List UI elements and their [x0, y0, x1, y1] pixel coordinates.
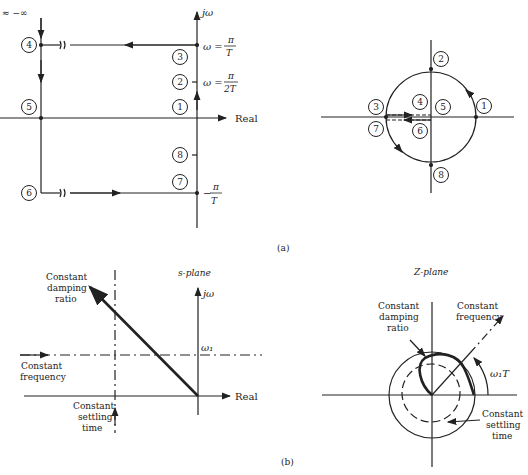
bz-damping-label-3: ratio: [387, 323, 409, 333]
break-mark-bottom: [60, 189, 65, 197]
damping-spiral: [420, 354, 474, 395]
settling-label-1: Constant: [73, 401, 114, 411]
bz-settling-label-3: time: [492, 431, 512, 441]
pi-num-2: π: [227, 71, 235, 81]
twoT-den: 2T: [223, 84, 237, 94]
b-real-label: Real: [235, 391, 258, 402]
bz-damping-label-1: Constant: [378, 301, 419, 311]
point-2: 2: [177, 77, 183, 87]
point-4: 4: [26, 40, 32, 50]
pi-num-3: π: [212, 182, 220, 192]
figure-canvas: ≈ −∞ jω Real ω = π T ω = π 2T − π T 1 2 …: [0, 0, 528, 475]
s-plane-title: s-plane: [178, 268, 211, 278]
damping-label-1: Constant: [46, 272, 87, 282]
frequency-label-1: Constant: [21, 361, 62, 371]
damping-label-2: damping: [47, 283, 87, 293]
w1T-arc: [474, 358, 488, 395]
b-zplane-diagram: [322, 302, 517, 467]
frequency-label-2: frequency: [20, 372, 67, 382]
bz-settling-label-2: settling: [486, 420, 521, 430]
T-den-1: T: [226, 48, 233, 58]
w1T-label: ω₁T: [490, 368, 510, 379]
z-point-8: 8: [438, 170, 444, 180]
bz-settling-label-1: Constant: [482, 409, 523, 419]
bz-frequency-label-2: frequency: [456, 312, 503, 322]
point-6: 6: [26, 188, 32, 198]
a-zplane-diagram: [321, 40, 514, 193]
point-7: 7: [177, 177, 183, 187]
break-mark-top: [60, 41, 65, 49]
z-point-6: 6: [417, 126, 423, 136]
a-splane-diagram: [0, 12, 226, 228]
bz-frequency-label-1: Constant: [457, 301, 498, 311]
b-splane-labels: s-plane jω Real ω₁ Constant damping rati…: [20, 268, 258, 433]
point-8: 8: [177, 150, 183, 160]
minus-infinity-label: ≈ −∞: [2, 8, 27, 18]
z-point-5: 5: [440, 102, 446, 112]
part-a-caption: (a): [277, 243, 289, 253]
settling-label-2: settling: [78, 412, 113, 422]
z-point-7: 7: [373, 124, 379, 134]
a-splane-labels: ≈ −∞ jω Real ω = π T ω = π 2T − π T 1 2 …: [2, 7, 258, 206]
omega1-label: ω₁: [201, 342, 213, 353]
pi-num-1: π: [227, 35, 235, 45]
z-point-3: 3: [373, 102, 379, 112]
omega-label-2: ω =: [203, 77, 223, 88]
z-point-2: 2: [438, 54, 444, 64]
bz-damping-label-2: damping: [379, 312, 419, 322]
part-b-caption: (b): [281, 457, 294, 467]
settling-label-3: time: [82, 423, 102, 433]
T-den-3: T: [211, 196, 218, 206]
damping-ratio-line: [90, 287, 198, 396]
z-point-1: 1: [481, 101, 487, 111]
point-1: 1: [177, 102, 183, 112]
z-plane-title: Z-plane: [413, 267, 448, 277]
b-jw-label: jω: [201, 288, 214, 299]
damping-label-3: ratio: [55, 294, 77, 304]
omega-label-1: ω =: [203, 41, 223, 52]
point-5: 5: [26, 102, 32, 112]
jw-label: jω: [200, 7, 213, 18]
point-3: 3: [177, 52, 183, 62]
z-point-4: 4: [417, 97, 423, 107]
real-label: Real: [235, 113, 258, 124]
